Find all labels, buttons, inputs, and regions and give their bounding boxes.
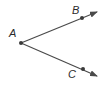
ray-ab — [21, 12, 97, 43]
point-b — [80, 16, 84, 20]
angle-diagram: A B C — [0, 0, 107, 85]
label-b: B — [72, 5, 79, 16]
point-a — [19, 41, 23, 45]
angle-diagram-svg — [0, 0, 107, 85]
ray-ac — [21, 43, 97, 76]
point-c — [81, 67, 85, 71]
label-c: C — [68, 69, 76, 80]
label-a: A — [9, 28, 16, 39]
